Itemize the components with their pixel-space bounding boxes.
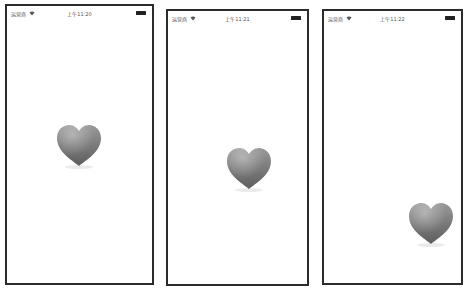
battery-icon	[445, 16, 455, 20]
heart-icon[interactable]	[406, 200, 456, 248]
status-time: 上午11:20	[7, 10, 152, 17]
phone-screen-3: 运营商 上午11:22	[322, 9, 463, 285]
status-time: 上午11:22	[324, 15, 461, 22]
status-bar: 运营商 上午11:21	[168, 13, 307, 23]
phone-screen-1: 运营商 上午11:20	[5, 4, 154, 285]
status-time: 上午11:21	[168, 15, 307, 22]
heart-icon[interactable]	[224, 145, 274, 193]
phone-screen-2: 运营商 上午11:21	[166, 9, 309, 286]
battery-icon	[291, 16, 301, 20]
status-bar: 运营商 上午11:20	[7, 8, 152, 18]
battery-icon	[136, 11, 146, 15]
heart-icon[interactable]	[54, 122, 104, 170]
status-bar: 运营商 上午11:22	[324, 13, 461, 23]
